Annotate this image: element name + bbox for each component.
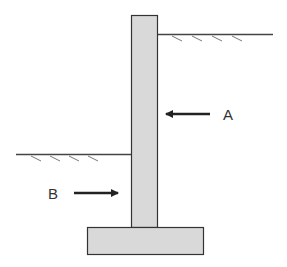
- retaining-wall-diagram: A B: [0, 0, 287, 267]
- soil-hatch-low: [31, 156, 98, 161]
- wall-footing: [88, 228, 204, 255]
- label-b: B: [48, 185, 58, 202]
- soil-hatch-high: [172, 36, 242, 41]
- ground-surface-high: [157, 35, 273, 42]
- label-a: A: [223, 106, 233, 123]
- ground-surface-low: [16, 155, 131, 162]
- wall-stem: [132, 16, 158, 228]
